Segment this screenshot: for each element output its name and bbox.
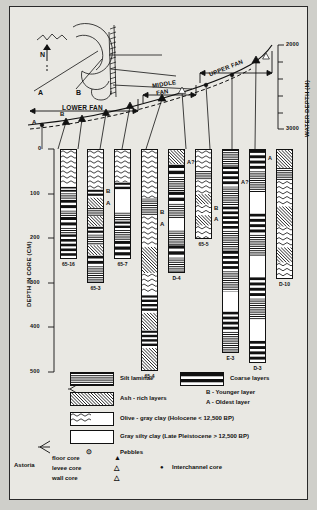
legend-swatch-gray-silty-clay [70, 430, 114, 444]
legend-swatch-olive-gray-clay [70, 412, 114, 426]
astoria-bracket [40, 441, 50, 453]
legend-label-olive-gray-clay: Olive - gray clay (Holocene < 12,500 BP) [120, 415, 234, 421]
pebbles-symbol-icon: ⊙ [86, 448, 92, 456]
astoria-floor-core-label: floor core [52, 455, 80, 461]
legend-swatch-ash-rich-layers [70, 392, 114, 406]
legend-label-gray-silty-clay: Gray silty clay (Late Pleistocene > 12,5… [120, 433, 249, 439]
legend-label-silt-laminae: Silt laminae [120, 375, 153, 381]
astoria-wall-core-label: wall core [52, 475, 78, 481]
levee-core-symbol-icon: △ [114, 464, 119, 472]
astoria-group-label: Astoria [14, 462, 35, 468]
astoria-levee-core-label: levee core [52, 465, 81, 471]
legend-swatch-coarse-layers [180, 372, 224, 386]
floor-core-symbol-icon: ▲ [114, 454, 121, 461]
legend-label-ash-rich-layers: Ash - rich layers [120, 395, 167, 401]
legend-label-coarse-layers: Coarse layers [230, 375, 269, 381]
legend-swatch-silt-laminae [70, 372, 114, 386]
legend-label-pebbles: Pebbles [120, 449, 143, 455]
interchannel-core-symbol-icon: ● [160, 464, 164, 470]
figure-root: N A B [0, 0, 317, 510]
legend-note-ash-a: A - Oldest layer [206, 399, 250, 405]
legend-drawing [10, 7, 307, 499]
wall-core-symbol-icon: △ [114, 474, 119, 482]
legend-label-interchannel-core: Interchannel core [172, 464, 222, 470]
figure-plate: N A B [9, 6, 308, 500]
legend-note-ash-b: B - Younger layer [206, 389, 255, 395]
